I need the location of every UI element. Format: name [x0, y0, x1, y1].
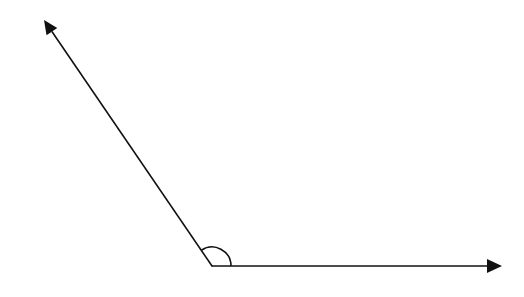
arrowhead-icon — [487, 259, 502, 273]
right-ray — [212, 259, 502, 273]
vertex-point — [211, 265, 213, 267]
angle-diagram — [0, 0, 524, 297]
arrowhead-icon — [44, 20, 57, 35]
left-ray — [44, 20, 212, 266]
